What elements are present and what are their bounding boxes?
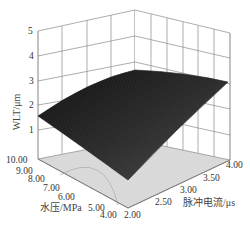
x-tick: 6.00 <box>58 192 75 202</box>
z-tick: 1 <box>29 125 34 135</box>
y-tick: 3.00 <box>180 185 197 195</box>
x-tick: 4.00 <box>100 210 117 220</box>
surface-chart: 5 4 3 2 1 WLT/μm 10.00 9.00 8.00 7.00 6.… <box>0 0 250 229</box>
z-tick: 2 <box>29 100 34 110</box>
y-axis-label: 脉冲电流/μs <box>183 196 235 208</box>
y-tick: 3.50 <box>203 173 220 183</box>
z-tick: 3 <box>29 76 34 86</box>
x-tick: 10.00 <box>6 155 28 165</box>
z-axis: 5 4 3 2 1 WLT/μm <box>11 26 34 135</box>
y-tick: 4.00 <box>226 160 243 170</box>
x-axis-label: 水压/MPa <box>40 202 82 213</box>
y-tick: 2.00 <box>124 210 141 220</box>
z-tick: 4 <box>29 51 34 61</box>
z-axis-label: WLT/μm <box>11 93 22 130</box>
y-tick: 2.50 <box>155 197 172 207</box>
z-tick: 5 <box>28 26 33 36</box>
